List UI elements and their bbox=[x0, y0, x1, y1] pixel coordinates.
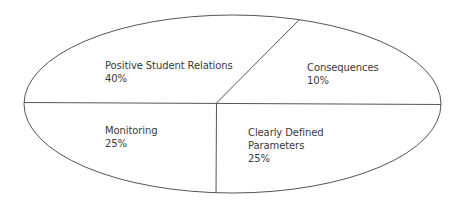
segment-percent: 10% bbox=[307, 74, 379, 87]
segment-name: Positive Student Relations bbox=[105, 59, 233, 72]
segment-label-clearly-defined-parameters: Clearly Defined Parameters 25% bbox=[248, 126, 324, 165]
horizontal-divider bbox=[20, 103, 445, 105]
vertical-divider bbox=[216, 103, 217, 200]
segment-name-line1: Clearly Defined bbox=[248, 126, 324, 139]
segment-name-line2: Parameters bbox=[248, 139, 324, 152]
segment-percent: 40% bbox=[105, 72, 233, 85]
segment-percent: 25% bbox=[105, 137, 157, 150]
ellipse-diagram-graphic bbox=[0, 0, 465, 204]
segment-label-positive-student-relations: Positive Student Relations 40% bbox=[105, 59, 233, 85]
segment-name: Consequences bbox=[307, 61, 379, 74]
classroom-management-diagram: Positive Student Relations 40% Consequen… bbox=[0, 0, 465, 204]
segment-label-monitoring: Monitoring 25% bbox=[105, 124, 157, 150]
segment-percent: 25% bbox=[248, 152, 324, 165]
segment-label-consequences: Consequences 10% bbox=[307, 61, 379, 87]
segment-name: Monitoring bbox=[105, 124, 157, 137]
